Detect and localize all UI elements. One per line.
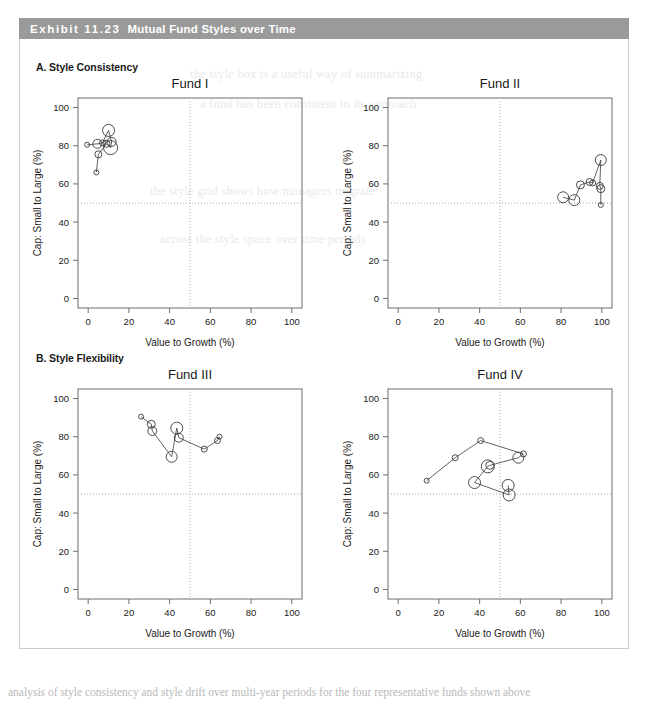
x-axis-tick-label: 20 [434,316,445,327]
y-axis-label: Cap: Small to Large (%) [342,150,353,257]
x-axis-tick-label: 100 [594,607,610,618]
x-axis-tick-label: 80 [246,607,257,618]
y-axis-tick-label: 80 [58,140,69,151]
y-axis-tick-label: 0 [64,584,69,595]
x-axis-tick-label: 60 [515,607,526,618]
y-axis-tick-label: 20 [58,546,69,557]
y-axis-tick-label: 20 [368,255,379,266]
y-axis-tick-label: 0 [64,293,69,304]
chart-title: Fund II [480,76,520,91]
x-axis-tick-label: 40 [474,316,485,327]
scatter-plot: Fund III020406080100020406080100Value to… [28,363,310,643]
exhibit-banner: Exhibit 11.23 Mutual Fund Styles over Ti… [19,18,629,39]
exhibit-page: the style box is a useful way of summari… [0,0,648,702]
y-axis-tick-label: 40 [368,217,379,228]
chart-fund-i: Fund I020406080100020406080100Value to G… [28,72,310,352]
exhibit-title: Mutual Fund Styles over Time [120,23,295,35]
x-axis-tick-label: 80 [246,316,257,327]
x-axis-tick-label: 40 [164,607,175,618]
exhibit-number: Exhibit 11.23 [19,23,120,35]
y-axis-tick-label: 0 [374,293,379,304]
series-path [427,441,524,495]
x-axis-tick-label: 40 [474,607,485,618]
x-axis-tick-label: 20 [434,607,445,618]
scatter-plot: Fund I020406080100020406080100Value to G… [28,72,310,352]
x-axis-tick-label: 100 [594,316,610,327]
x-axis-label: Value to Growth (%) [455,628,544,639]
x-axis-tick-label: 20 [124,607,135,618]
x-axis-tick-label: 60 [515,316,526,327]
chart-fund-iv: Fund IV020406080100020406080100Value to … [338,363,620,643]
x-axis-tick-label: 80 [556,607,567,618]
x-axis-tick-label: 40 [164,316,175,327]
x-axis-tick-label: 100 [284,607,300,618]
chart-title: Fund IV [477,367,523,382]
y-axis-tick-label: 80 [368,431,379,442]
scatter-plot: Fund II020406080100020406080100Value to … [338,72,620,352]
x-axis-tick-label: 0 [396,316,401,327]
x-axis-label: Value to Growth (%) [455,337,544,348]
x-axis-label: Value to Growth (%) [145,337,234,348]
y-axis-label: Cap: Small to Large (%) [342,441,353,548]
x-axis-tick-label: 100 [284,316,300,327]
x-axis-label: Value to Growth (%) [145,628,234,639]
y-axis-tick-label: 60 [58,178,69,189]
y-axis-tick-label: 60 [58,469,69,480]
y-axis-tick-label: 40 [58,217,69,228]
x-axis-tick-label: 60 [205,607,216,618]
y-axis-label: Cap: Small to Large (%) [32,441,43,548]
x-axis-tick-label: 0 [86,607,91,618]
chart-title: Fund I [172,76,209,91]
x-axis-tick-label: 80 [556,316,567,327]
chart-fund-ii: Fund II020406080100020406080100Value to … [338,72,620,352]
y-axis-tick-label: 80 [58,431,69,442]
ghost-footer-text: analysis of style consistency and style … [8,686,644,698]
series-path [141,417,219,457]
x-axis-tick-label: 0 [396,607,401,618]
y-axis-tick-label: 100 [53,102,69,113]
y-axis-tick-label: 100 [53,393,69,404]
data-point [424,478,429,483]
y-axis-tick-label: 80 [368,140,379,151]
y-axis-tick-label: 40 [58,508,69,519]
y-axis-tick-label: 0 [374,584,379,595]
y-axis-tick-label: 20 [368,546,379,557]
y-axis-tick-label: 60 [368,469,379,480]
y-axis-tick-label: 40 [368,508,379,519]
y-axis-tick-label: 60 [368,178,379,189]
chart-title: Fund III [168,367,212,382]
y-axis-label: Cap: Small to Large (%) [32,150,43,257]
chart-fund-iii: Fund III020406080100020406080100Value to… [28,363,310,643]
data-point [558,192,569,203]
y-axis-tick-label: 100 [363,393,379,404]
scatter-plot: Fund IV020406080100020406080100Value to … [338,363,620,643]
y-axis-tick-label: 20 [58,255,69,266]
x-axis-tick-label: 60 [205,316,216,327]
y-axis-tick-label: 100 [363,102,379,113]
x-axis-tick-label: 20 [124,316,135,327]
x-axis-tick-label: 0 [86,316,91,327]
